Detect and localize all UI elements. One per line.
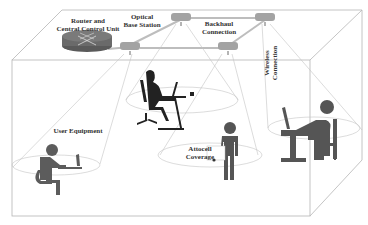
backhaul-label-line2: Connection: [194, 28, 244, 36]
attocell-coverage-label: Attocell Coverage: [180, 145, 220, 161]
wireless-connection-label: Wireless Connection: [263, 38, 279, 88]
obs-label-line2: Base Station: [118, 21, 166, 29]
router-label-line1: Router and: [50, 17, 126, 25]
attocell-network-diagram: [0, 0, 368, 225]
router-label: Router and Central Control Unit: [50, 17, 126, 33]
backhaul-label-line1: Backhaul: [194, 20, 244, 28]
obs-label-line1: Optical: [118, 13, 166, 21]
wireless-label-line1: Wireless: [263, 38, 271, 88]
router-label-line2: Central Control Unit: [50, 25, 126, 33]
router-icon: [62, 30, 112, 52]
optical-base-station-3: [218, 42, 238, 55]
optical-base-station-label: Optical Base Station: [118, 13, 166, 29]
backhaul-connection-label: Backhaul Connection: [194, 20, 244, 36]
wireless-label-line2: Connection: [271, 38, 279, 88]
seated-user-right: [281, 100, 337, 162]
seated-woman-center: [137, 70, 194, 130]
optical-base-station-1: [120, 42, 140, 55]
attocell-label-line2: Coverage: [180, 153, 220, 161]
user-equipment-label: User Equipment: [48, 127, 108, 135]
seated-user-left: [35, 144, 82, 195]
attocell-label-line1: Attocell: [180, 145, 220, 153]
